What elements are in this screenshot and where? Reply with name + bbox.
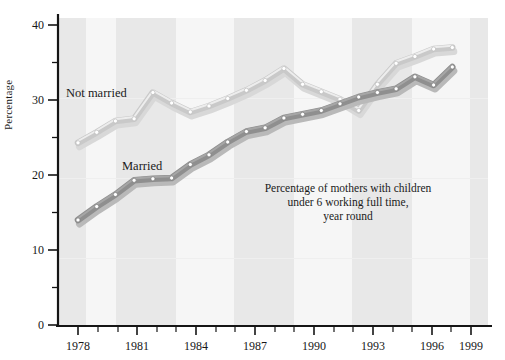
data-point-marker <box>263 126 267 130</box>
data-point-marker <box>413 54 417 58</box>
y-tick-30: 30 <box>32 93 44 107</box>
data-point-marker <box>301 82 305 86</box>
annotation-line-2: under 6 working full time, <box>287 196 408 209</box>
data-point-marker <box>319 108 323 112</box>
series-label-married: Married <box>122 159 163 173</box>
data-point-marker <box>282 66 286 70</box>
data-point-marker <box>375 90 379 94</box>
data-point-marker <box>244 88 248 92</box>
x-tick-1978: 1978 <box>66 339 90 353</box>
data-point-marker <box>319 90 323 94</box>
data-point-marker <box>132 178 136 182</box>
chart-container: Percentage <box>0 0 505 360</box>
y-tick-0: 0 <box>38 318 44 332</box>
y-tick-labels: 40 30 20 10 0 <box>32 18 44 332</box>
data-point-marker <box>76 141 80 145</box>
data-point-marker <box>188 110 192 114</box>
data-point-marker <box>151 90 155 94</box>
data-point-marker <box>244 129 248 133</box>
line-chart-plot: 40 30 20 10 0 1978 1981 1984 1987 1990 1… <box>0 0 505 360</box>
x-tick-1996: 1996 <box>420 339 444 353</box>
y-tick-10: 10 <box>32 243 44 257</box>
data-point-marker <box>432 83 436 87</box>
x-tick-1987: 1987 <box>243 339 267 353</box>
data-point-marker <box>338 102 342 106</box>
data-point-marker <box>95 204 99 208</box>
data-point-marker <box>413 75 417 79</box>
data-point-marker <box>394 61 398 65</box>
data-point-marker <box>207 153 211 157</box>
data-point-marker <box>301 112 305 116</box>
data-point-marker <box>357 95 361 99</box>
data-point-marker <box>450 45 454 49</box>
x-tick-labels: 1978 1981 1984 1987 1990 1993 1996 1999 <box>66 339 483 353</box>
y-tick-40: 40 <box>32 18 44 32</box>
x-tick-1990: 1990 <box>302 339 326 353</box>
annotation-line-3: year round <box>323 210 373 223</box>
x-tick-1999: 1999 <box>459 339 483 353</box>
data-point-marker <box>113 192 117 196</box>
data-point-marker <box>188 162 192 166</box>
data-point-marker <box>282 116 286 120</box>
data-point-marker <box>357 108 361 112</box>
data-point-marker <box>226 140 230 144</box>
y-tick-20: 20 <box>32 168 44 182</box>
data-point-marker <box>95 130 99 134</box>
data-point-marker <box>394 87 398 91</box>
data-point-marker <box>76 218 80 222</box>
data-point-marker <box>375 82 379 86</box>
data-point-marker <box>170 176 174 180</box>
data-point-marker <box>450 65 454 69</box>
data-point-marker <box>207 104 211 108</box>
data-point-marker <box>226 96 230 100</box>
annotation-line-1: Percentage of mothers with children <box>265 182 432 195</box>
x-tick-1981: 1981 <box>125 339 149 353</box>
series-label-not-married: Not married <box>66 86 127 100</box>
x-tick-1993: 1993 <box>361 339 385 353</box>
data-point-marker <box>113 119 117 123</box>
data-point-marker <box>263 78 267 82</box>
data-point-marker <box>170 101 174 105</box>
data-point-marker <box>432 47 436 51</box>
data-point-marker <box>132 117 136 121</box>
data-point-marker <box>151 177 155 181</box>
x-tick-1984: 1984 <box>184 339 208 353</box>
